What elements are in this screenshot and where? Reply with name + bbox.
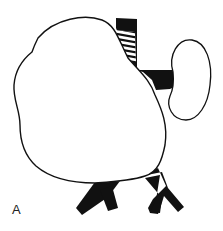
left-bifurcation [76, 181, 120, 215]
mass [14, 17, 166, 183]
diagram-canvas [0, 0, 223, 231]
kidney [169, 40, 211, 120]
panel-label: A [12, 202, 21, 217]
